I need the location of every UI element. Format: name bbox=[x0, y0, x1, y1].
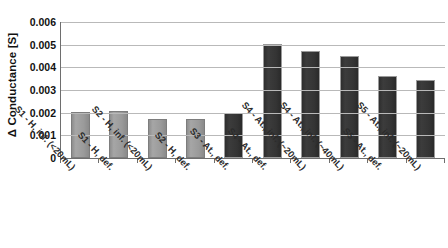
gridline bbox=[61, 90, 445, 91]
y-axis-tick-label: 0.003 bbox=[18, 84, 56, 96]
gridline bbox=[61, 22, 445, 23]
y-axis-title-text: Δ Conductance [S] bbox=[6, 33, 18, 138]
y-axis-tick-label: 0.004 bbox=[18, 61, 56, 73]
y-axis-tick-label: 0.005 bbox=[18, 39, 56, 51]
bar-chart-figure: Δ Conductance [S] 0.0060.0050.0040.0030.… bbox=[0, 0, 448, 248]
x-axis-category-labels: S1 - H, inf. (<20mL)S1 - H, def.S2 - H, … bbox=[60, 163, 444, 248]
bar[interactable] bbox=[416, 80, 435, 158]
y-axis-tick-label: 0.006 bbox=[18, 16, 56, 28]
x-axis-tick-mark bbox=[444, 158, 445, 163]
gridline bbox=[61, 45, 445, 46]
gridline bbox=[61, 67, 445, 68]
y-axis-tick-label: 0 bbox=[18, 152, 56, 164]
